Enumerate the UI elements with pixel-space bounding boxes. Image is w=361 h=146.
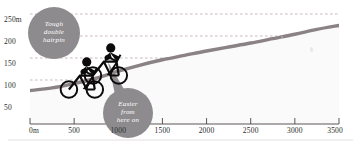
x-axis-tick-label: 3000 — [287, 126, 303, 135]
annotation-bubble-hairpin[interactable] — [28, 7, 80, 59]
x-axis-tick-label: 3500 — [327, 126, 343, 135]
x-axis-tick-label: 0m — [29, 126, 39, 135]
elevation-profile-chart: Tough double hairpin Easier from here on… — [0, 0, 361, 146]
y-axis-tick-label: 200 — [4, 37, 16, 46]
chart-canvas — [0, 0, 361, 146]
y-axis-tick-label: 150 — [4, 59, 16, 68]
page-speck-small-icon — [281, 36, 283, 38]
x-axis-tick-label: 500 — [68, 126, 80, 135]
x-axis-tick-label: 2000 — [199, 126, 215, 135]
x-axis-tick-label: 1000 — [110, 126, 126, 135]
x-axis-tick-label: 2500 — [243, 126, 259, 135]
x-axis-tick-label: 1500 — [155, 126, 171, 135]
page-speck-icon — [310, 47, 313, 52]
y-axis-tick-label: 100 — [4, 81, 16, 90]
y-axis-tick-label: 250m — [4, 15, 22, 24]
y-axis-tick-label: 50 — [4, 103, 12, 112]
